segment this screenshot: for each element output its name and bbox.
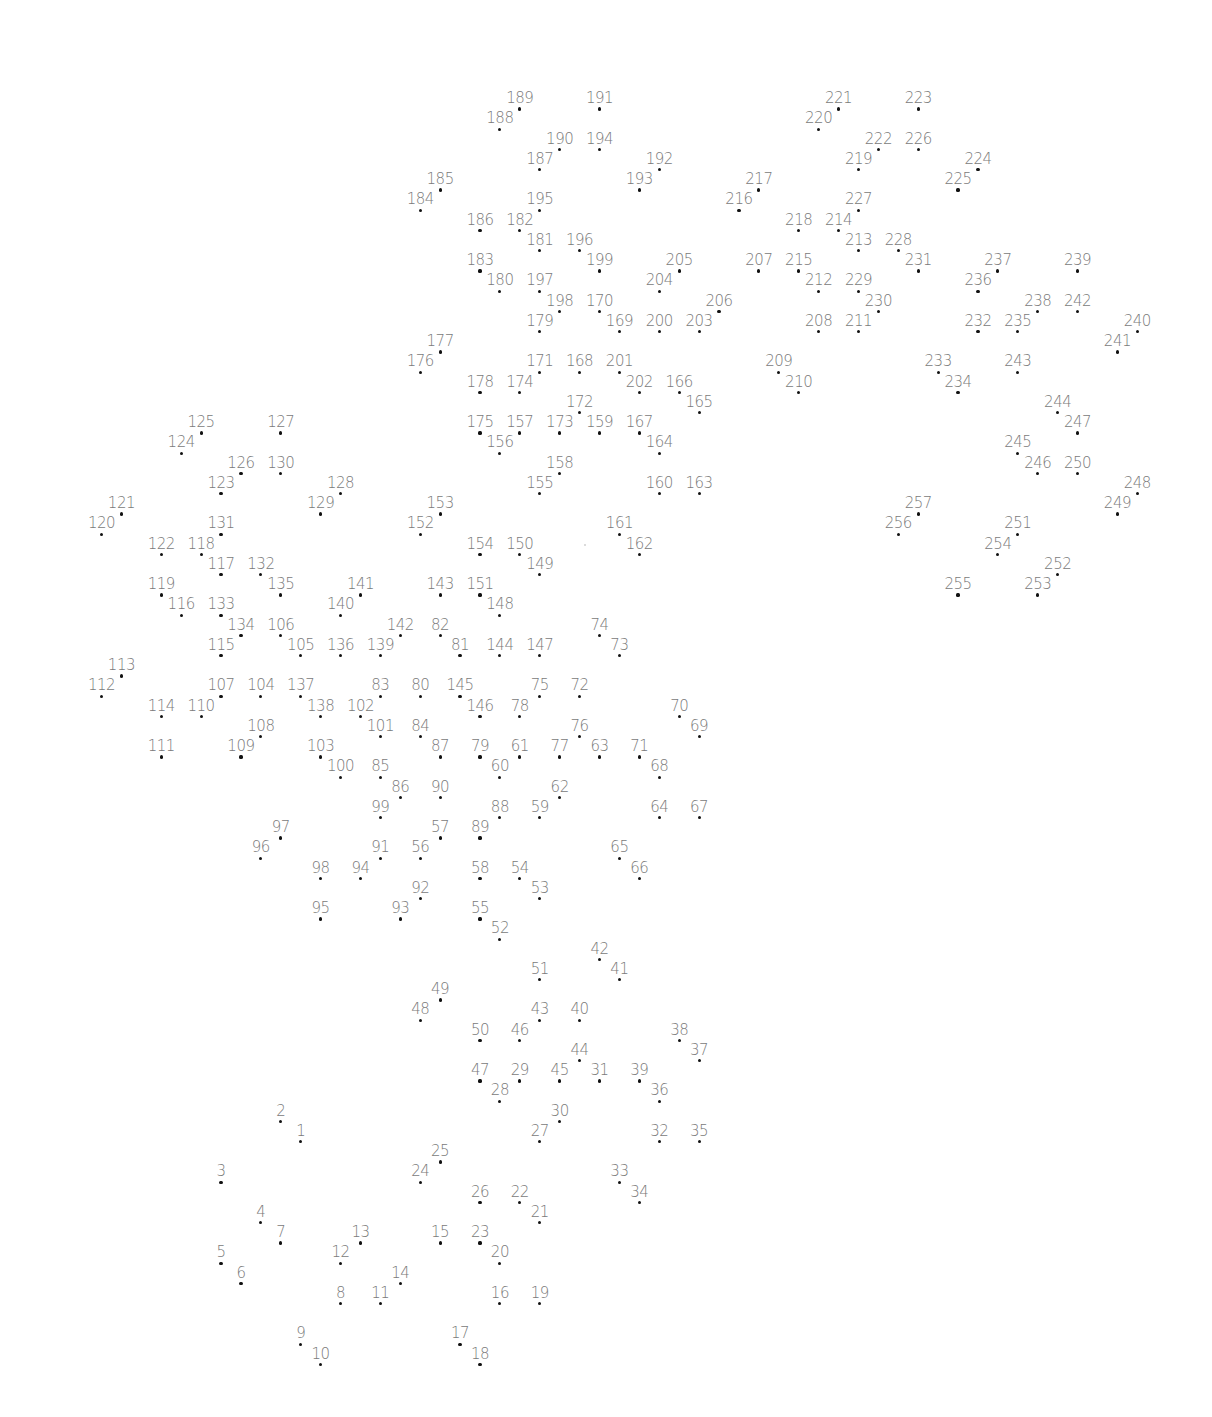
dot-icon[interactable] xyxy=(518,1201,521,1204)
dot-icon[interactable] xyxy=(439,188,442,191)
dot-icon[interactable] xyxy=(319,512,322,515)
dot-icon[interactable] xyxy=(956,391,959,394)
dot-icon[interactable] xyxy=(797,229,800,232)
dot-icon[interactable] xyxy=(538,330,541,333)
dot-icon[interactable] xyxy=(339,654,342,657)
dot-icon[interactable] xyxy=(857,290,860,293)
dot-icon[interactable] xyxy=(259,573,262,576)
dot-icon[interactable] xyxy=(478,755,481,758)
dot-icon[interactable] xyxy=(219,533,222,536)
dot-icon[interactable] xyxy=(538,1019,541,1022)
dot-icon[interactable] xyxy=(498,654,501,657)
dot-icon[interactable] xyxy=(180,452,183,455)
dot-icon[interactable] xyxy=(558,310,561,313)
dot-icon[interactable] xyxy=(359,877,362,880)
dot-icon[interactable] xyxy=(339,614,342,617)
dot-icon[interactable] xyxy=(478,877,481,880)
dot-icon[interactable] xyxy=(956,593,959,596)
dot-icon[interactable] xyxy=(538,695,541,698)
dot-icon[interactable] xyxy=(379,695,382,698)
dot-icon[interactable] xyxy=(638,1079,641,1082)
dot-icon[interactable] xyxy=(498,452,501,455)
dot-icon[interactable] xyxy=(698,411,701,414)
dot-icon[interactable] xyxy=(259,1221,262,1224)
dot-icon[interactable] xyxy=(498,816,501,819)
dot-icon[interactable] xyxy=(658,492,661,495)
dot-icon[interactable] xyxy=(200,553,203,556)
dot-icon[interactable] xyxy=(1116,512,1119,515)
dot-icon[interactable] xyxy=(598,755,601,758)
dot-icon[interactable] xyxy=(558,431,561,434)
dot-icon[interactable] xyxy=(518,391,521,394)
dot-icon[interactable] xyxy=(737,209,740,212)
dot-icon[interactable] xyxy=(1016,371,1019,374)
dot-icon[interactable] xyxy=(598,634,601,637)
dot-icon[interactable] xyxy=(857,209,860,212)
dot-icon[interactable] xyxy=(638,553,641,556)
dot-icon[interactable] xyxy=(299,1343,302,1346)
dot-icon[interactable] xyxy=(1076,269,1079,272)
dot-icon[interactable] xyxy=(160,715,163,718)
dot-icon[interactable] xyxy=(439,1241,442,1244)
dot-icon[interactable] xyxy=(1136,492,1139,495)
dot-icon[interactable] xyxy=(299,695,302,698)
dot-icon[interactable] xyxy=(498,1262,501,1265)
dot-icon[interactable] xyxy=(399,796,402,799)
dot-icon[interactable] xyxy=(200,715,203,718)
dot-icon[interactable] xyxy=(319,755,322,758)
dot-icon[interactable] xyxy=(180,614,183,617)
dot-icon[interactable] xyxy=(439,755,442,758)
dot-icon[interactable] xyxy=(976,330,979,333)
dot-icon[interactable] xyxy=(797,269,800,272)
dot-icon[interactable] xyxy=(1136,330,1139,333)
dot-icon[interactable] xyxy=(538,654,541,657)
dot-icon[interactable] xyxy=(219,492,222,495)
dot-icon[interactable] xyxy=(658,330,661,333)
dot-icon[interactable] xyxy=(678,391,681,394)
dot-icon[interactable] xyxy=(598,107,601,110)
dot-icon[interactable] xyxy=(498,290,501,293)
dot-icon[interactable] xyxy=(658,1100,661,1103)
dot-icon[interactable] xyxy=(917,512,920,515)
dot-icon[interactable] xyxy=(1076,431,1079,434)
dot-icon[interactable] xyxy=(478,1363,481,1366)
dot-icon[interactable] xyxy=(598,148,601,151)
dot-icon[interactable] xyxy=(339,776,342,779)
dot-icon[interactable] xyxy=(658,452,661,455)
dot-icon[interactable] xyxy=(399,1282,402,1285)
dot-icon[interactable] xyxy=(538,209,541,212)
dot-icon[interactable] xyxy=(498,1302,501,1305)
dot-icon[interactable] xyxy=(478,1241,481,1244)
dot-icon[interactable] xyxy=(578,735,581,738)
dot-icon[interactable] xyxy=(618,330,621,333)
dot-icon[interactable] xyxy=(578,371,581,374)
dot-icon[interactable] xyxy=(538,249,541,252)
dot-icon[interactable] xyxy=(817,290,820,293)
dot-icon[interactable] xyxy=(877,148,880,151)
dot-icon[interactable] xyxy=(200,431,203,434)
dot-icon[interactable] xyxy=(239,1282,242,1285)
dot-icon[interactable] xyxy=(518,715,521,718)
dot-icon[interactable] xyxy=(439,1160,442,1163)
dot-icon[interactable] xyxy=(996,553,999,556)
dot-icon[interactable] xyxy=(717,310,720,313)
dot-icon[interactable] xyxy=(379,1302,382,1305)
dot-icon[interactable] xyxy=(439,593,442,596)
dot-icon[interactable] xyxy=(518,553,521,556)
dot-icon[interactable] xyxy=(538,1302,541,1305)
dot-icon[interactable] xyxy=(478,715,481,718)
dot-icon[interactable] xyxy=(678,715,681,718)
dot-icon[interactable] xyxy=(279,593,282,596)
dot-icon[interactable] xyxy=(837,229,840,232)
dot-icon[interactable] xyxy=(558,1079,561,1082)
dot-icon[interactable] xyxy=(658,168,661,171)
dot-icon[interactable] xyxy=(797,391,800,394)
dot-icon[interactable] xyxy=(638,391,641,394)
dot-icon[interactable] xyxy=(279,431,282,434)
dot-icon[interactable] xyxy=(976,168,979,171)
dot-icon[interactable] xyxy=(219,654,222,657)
dot-icon[interactable] xyxy=(1016,330,1019,333)
dot-icon[interactable] xyxy=(897,533,900,536)
dot-icon[interactable] xyxy=(120,674,123,677)
dot-icon[interactable] xyxy=(698,492,701,495)
